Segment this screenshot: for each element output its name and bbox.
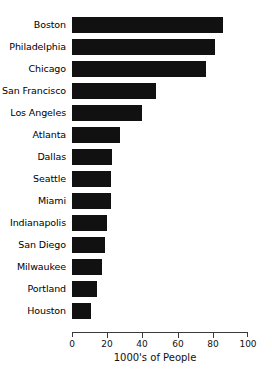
- bar: [72, 127, 120, 143]
- bar: [72, 171, 111, 187]
- category-label: Seattle: [0, 168, 66, 190]
- bar: [72, 193, 111, 209]
- category-label: Portland: [0, 278, 66, 300]
- bar-track: [72, 171, 272, 187]
- bar: [72, 149, 112, 165]
- bar: [72, 105, 142, 121]
- bar-row: Boston: [0, 14, 272, 36]
- x-axis-tick-label: 100: [236, 339, 260, 349]
- bar-row: Seattle: [0, 168, 272, 190]
- category-label: Chicago: [0, 58, 66, 80]
- x-axis-title: 1000's of People: [0, 352, 272, 363]
- x-axis-tick: [107, 333, 108, 338]
- bar-track: [72, 61, 272, 77]
- x-axis-tick: [178, 333, 179, 338]
- bar-row: Portland: [0, 278, 272, 300]
- x-axis-tick: [142, 333, 143, 338]
- bar-track: [72, 237, 272, 253]
- bar-row: Dallas: [0, 146, 272, 168]
- bar-track: [72, 39, 272, 55]
- x-axis-tick-label: 0: [60, 339, 84, 349]
- category-label: Philadelphia: [0, 36, 66, 58]
- bar-track: [72, 149, 272, 165]
- bar: [72, 17, 223, 33]
- category-label: Indianapolis: [0, 212, 66, 234]
- bar-track: [72, 193, 272, 209]
- category-label: Miami: [0, 190, 66, 212]
- bar-row: Milwaukee: [0, 256, 272, 278]
- bar-row: Indianapolis: [0, 212, 272, 234]
- category-label: Boston: [0, 14, 66, 36]
- bar: [72, 259, 102, 275]
- bar-row: Los Angeles: [0, 102, 272, 124]
- bar: [72, 237, 105, 253]
- bar-track: [72, 127, 272, 143]
- x-axis-tick-label: 40: [130, 339, 154, 349]
- bar-chart: BostonPhiladelphiaChicagoSan FranciscoLo…: [0, 0, 272, 376]
- category-label: San Francisco: [0, 80, 66, 102]
- category-label: Los Angeles: [0, 102, 66, 124]
- category-label: Milwaukee: [0, 256, 66, 278]
- x-axis-tick: [213, 333, 214, 338]
- category-label: San Diego: [0, 234, 66, 256]
- bar-row: Miami: [0, 190, 272, 212]
- bar-track: [72, 259, 272, 275]
- bar: [72, 303, 91, 319]
- bar-row: Chicago: [0, 58, 272, 80]
- x-axis-tick-label: 20: [95, 339, 119, 349]
- category-label: Dallas: [0, 146, 66, 168]
- bar-row: Philadelphia: [0, 36, 272, 58]
- bar-track: [72, 83, 272, 99]
- bar-track: [72, 303, 272, 319]
- plot-area: BostonPhiladelphiaChicagoSan FranciscoLo…: [0, 12, 272, 332]
- bar-row: San Diego: [0, 234, 272, 256]
- chart-title-cropped: [0, 0, 272, 12]
- bar: [72, 215, 107, 231]
- bar: [72, 281, 97, 297]
- bar: [72, 61, 206, 77]
- x-axis-tick-label: 60: [166, 339, 190, 349]
- bar: [72, 39, 215, 55]
- x-axis-tick-label: 80: [201, 339, 225, 349]
- bar-row: San Francisco: [0, 80, 272, 102]
- bar-row: Atlanta: [0, 124, 272, 146]
- bar-track: [72, 105, 272, 121]
- bar-track: [72, 17, 272, 33]
- x-axis-left-cap: [72, 332, 73, 337]
- bar-row: Houston: [0, 300, 272, 322]
- bar-track: [72, 281, 272, 297]
- bar-track: [72, 215, 272, 231]
- bar: [72, 83, 156, 99]
- x-axis-line: [72, 332, 248, 333]
- category-label: Atlanta: [0, 124, 66, 146]
- x-axis-right-cap: [247, 332, 248, 337]
- category-label: Houston: [0, 300, 66, 322]
